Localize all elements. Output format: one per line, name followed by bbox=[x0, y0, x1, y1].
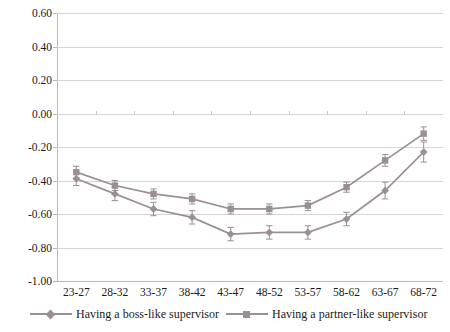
y-axis-tick-label: 0.60 bbox=[32, 7, 52, 19]
chart-legend: Having a boss-like supervisor Having a p… bbox=[0, 303, 450, 325]
series-boss-like bbox=[72, 142, 427, 241]
y-axis-labels: 0.600.400.200.00-0.20-0.40-0.60-0.80-1.0… bbox=[0, 0, 52, 332]
data-point-square bbox=[228, 206, 234, 212]
y-axis-tick-label: -0.80 bbox=[28, 242, 52, 254]
x-axis-tick-label: 68-72 bbox=[410, 286, 437, 298]
legend-marker-square-icon bbox=[226, 309, 268, 319]
data-point-diamond bbox=[150, 205, 158, 213]
chart-figure: 0.600.400.200.00-0.20-0.40-0.60-0.80-1.0… bbox=[0, 0, 450, 332]
data-point-diamond bbox=[111, 190, 119, 198]
x-axis-tick-label: 48-52 bbox=[256, 286, 283, 298]
legend-marker-diamond-icon bbox=[30, 309, 72, 319]
y-axis-tick-label: -0.40 bbox=[28, 175, 52, 187]
x-axis-tick-label: 58-62 bbox=[333, 286, 360, 298]
data-point-square bbox=[112, 182, 118, 188]
x-axis-labels: 23-2728-3233-3738-4243-4748-5253-5758-62… bbox=[57, 281, 443, 303]
series-layer bbox=[57, 13, 443, 281]
x-axis-tick-label: 38-42 bbox=[179, 286, 206, 298]
data-point-square bbox=[421, 130, 427, 136]
data-point-square bbox=[343, 184, 349, 190]
legend-item-boss-like[interactable]: Having a boss-like supervisor bbox=[30, 303, 219, 325]
x-axis-tick-label: 43-47 bbox=[217, 286, 244, 298]
y-axis-tick-label: -0.60 bbox=[28, 208, 52, 220]
data-point-square bbox=[266, 206, 272, 212]
data-point-square bbox=[382, 157, 388, 163]
legend-item-partner-like[interactable]: Having a partner-like supervisor bbox=[226, 303, 427, 325]
y-axis-tick-label: -0.20 bbox=[28, 141, 52, 153]
data-point-diamond bbox=[304, 229, 312, 237]
series-line bbox=[76, 152, 423, 234]
data-point-square bbox=[189, 196, 195, 202]
data-point-square bbox=[73, 169, 79, 175]
legend-label-partner-like: Having a partner-like supervisor bbox=[272, 307, 427, 322]
legend-label-boss-like: Having a boss-like supervisor bbox=[76, 307, 219, 322]
data-point-diamond bbox=[265, 229, 273, 237]
series-line bbox=[76, 134, 423, 209]
x-axis-tick-label: 28-32 bbox=[101, 286, 128, 298]
series-partner-like bbox=[73, 127, 427, 214]
plot-area bbox=[57, 13, 443, 281]
data-point-diamond bbox=[227, 230, 235, 238]
y-axis-tick-label: 0.00 bbox=[32, 108, 52, 120]
data-point-square bbox=[150, 191, 156, 197]
x-axis-tick-label: 53-57 bbox=[294, 286, 321, 298]
y-axis-tick-label: 0.20 bbox=[32, 74, 52, 86]
data-point-diamond bbox=[188, 213, 196, 221]
x-axis-tick-label: 33-37 bbox=[140, 286, 167, 298]
y-axis-tick-label: 0.40 bbox=[32, 41, 52, 53]
x-axis-tick-label: 63-67 bbox=[372, 286, 399, 298]
y-axis-tick-label: -1.00 bbox=[28, 275, 52, 287]
x-axis-tick-label: 23-27 bbox=[63, 286, 90, 298]
data-point-square bbox=[305, 202, 311, 208]
